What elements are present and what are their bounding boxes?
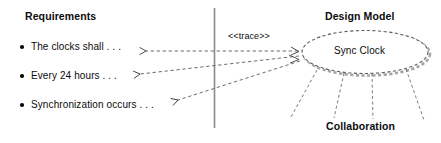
collaboration-line-2 (334, 73, 344, 118)
trace-line-3 (178, 61, 300, 100)
trace-stereotype-label: <<trace>> (228, 32, 270, 41)
requirement-item-1: The clocks shall . . . (31, 42, 121, 52)
collaboration-label: Collaboration (326, 121, 395, 132)
bullet-marker (20, 45, 24, 49)
design-model-heading: Design Model (325, 11, 394, 22)
sync-clock-label: Sync Clock (334, 46, 385, 56)
requirement-item-3: Synchronization occurs . . . (31, 100, 154, 110)
collaboration-line-1 (291, 70, 317, 117)
bullet-marker (20, 74, 24, 78)
collaboration-line-3 (372, 74, 373, 120)
bullet-marker (20, 103, 24, 107)
requirement-item-2: Every 24 hours . . . (31, 71, 117, 81)
diagram-canvas: Requirements The clocks shall . . . Ever… (0, 0, 441, 143)
requirements-heading: Requirements (25, 11, 96, 22)
collaboration-line-4 (406, 69, 424, 120)
trace-line-2 (140, 56, 299, 74)
